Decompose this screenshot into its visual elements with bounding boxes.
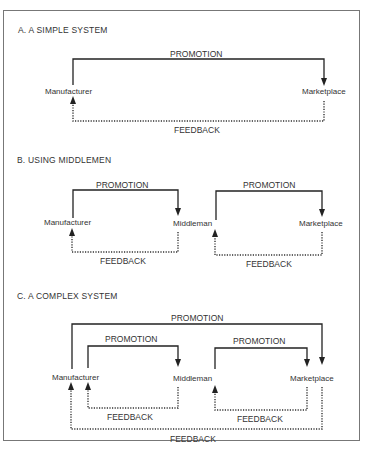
promotion-arrow	[215, 348, 307, 369]
feedback-arrow	[215, 232, 322, 255]
feedback-arrow	[215, 387, 307, 410]
feedback-arrow	[72, 232, 178, 252]
node-middleman: Middleman	[173, 219, 212, 228]
arrowhead-icon	[175, 359, 181, 367]
node-middleman: Middleman	[173, 374, 212, 383]
arrowhead-icon	[85, 382, 91, 390]
section-a-title: A. A SIMPLE SYSTEM	[18, 25, 108, 35]
section-c: C. A COMPLEX SYSTEM PROMOTION PROMOTION …	[17, 291, 334, 444]
node-manufacturer: Manufacturer	[45, 87, 92, 96]
arrowhead-icon	[212, 385, 218, 393]
node-manufacturer: Manufacturer	[52, 373, 99, 382]
section-b: B. USING MIDDLEMEN PROMOTION PROMOTION M…	[17, 155, 343, 269]
feedback-label: FEEDBACK	[170, 434, 216, 444]
promotion-label: PROMOTION	[96, 180, 148, 190]
arrowhead-icon	[319, 209, 325, 217]
promotion-arrow	[73, 59, 324, 85]
marketing-communication-diagram: A. A SIMPLE SYSTEM PROMOTION Manufacture…	[0, 0, 365, 467]
feedback-arrow	[88, 387, 178, 408]
node-manufacturer: Manufacturer	[44, 218, 91, 227]
promotion-label: PROMOTION	[243, 180, 295, 190]
feedback-arrow	[71, 387, 322, 429]
arrowhead-icon	[212, 229, 218, 237]
promotion-arrow	[73, 190, 178, 218]
arrowhead-icon	[68, 382, 74, 390]
promotion-label: PROMOTION	[233, 336, 285, 346]
feedback-arrow	[73, 101, 324, 121]
feedback-label: FEEDBACK	[246, 259, 292, 269]
promotion-arrow	[88, 346, 178, 368]
arrowhead-icon	[175, 208, 181, 216]
arrowhead-icon	[319, 357, 325, 365]
feedback-label: FEEDBACK	[100, 256, 146, 266]
promotion-label: PROMOTION	[170, 49, 222, 59]
section-b-title: B. USING MIDDLEMEN	[17, 155, 111, 165]
section-c-title: C. A COMPLEX SYSTEM	[17, 291, 118, 301]
feedback-label: FEEDBACK	[107, 412, 153, 422]
promotion-label: PROMOTION	[171, 313, 223, 323]
arrowhead-icon	[69, 228, 75, 236]
feedback-label: FEEDBACK	[237, 414, 283, 424]
section-a: A. A SIMPLE SYSTEM PROMOTION Manufacture…	[18, 25, 346, 135]
arrowhead-icon	[70, 96, 76, 104]
arrowhead-icon	[321, 78, 327, 86]
promotion-label: PROMOTION	[105, 334, 157, 344]
arrowhead-icon	[304, 359, 310, 367]
promotion-arrow	[216, 191, 322, 220]
node-marketplace: Marketplace	[299, 219, 343, 228]
node-marketplace: Marketplace	[290, 374, 334, 383]
feedback-label: FEEDBACK	[174, 125, 220, 135]
node-marketplace: Marketplace	[302, 87, 346, 96]
